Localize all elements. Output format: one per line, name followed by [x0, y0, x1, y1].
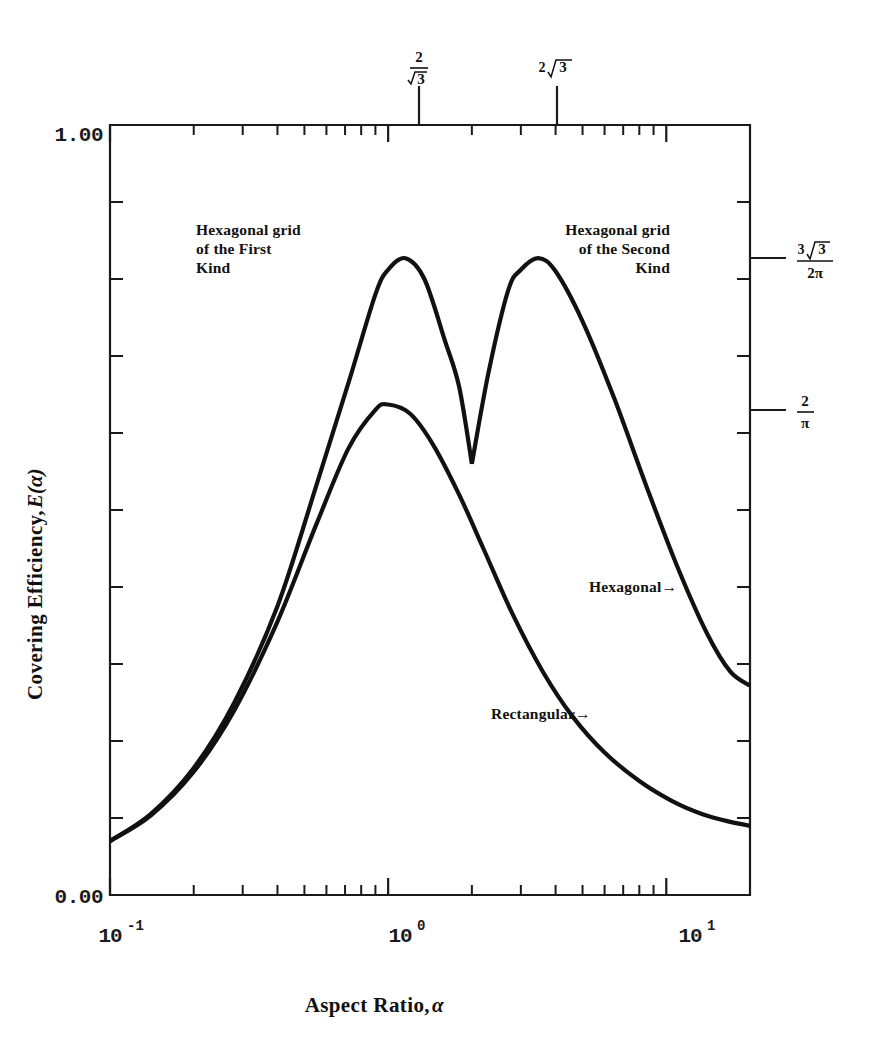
x-axis-label-left-exponent: -1	[127, 918, 144, 934]
right-marker-numerator-radicand: 3	[818, 241, 826, 257]
top-marker-coefficient: 2	[539, 60, 546, 75]
y-axis-title: Covering Efficiency, E(α)	[23, 468, 47, 700]
y-axis-ticks-right	[737, 202, 750, 818]
y-axis-bottom-label: 0.00	[55, 886, 103, 909]
x-axis-ticks-top	[110, 125, 750, 142]
y-axis-title-text: Covering Efficiency,	[23, 510, 47, 700]
annotation-line: Hexagonal grid	[565, 221, 670, 238]
curve-rectangular	[110, 404, 750, 841]
annotation-hexagonal-curve: Hexagonal→	[589, 578, 677, 595]
chart-svg: 2 3 2 3 3 3 2π 2 π	[0, 0, 875, 1058]
x-axis-label-right-exponent: 1	[707, 918, 715, 934]
annotation-line: of the Second	[579, 240, 670, 257]
annotation-line: Kind	[636, 259, 671, 276]
annotation-hex-first-kind: Hexagonal grid of the First Kind	[196, 221, 301, 276]
annotation-hex-second-kind: Hexagonal grid of the Second Kind	[565, 221, 670, 276]
x-axis-label-right: 10 1	[678, 918, 715, 948]
annotation-rectangular-curve: Rectangular→	[491, 705, 591, 722]
top-marker-numerator: 2	[415, 49, 423, 65]
right-marker-two-over-pi: 2 π	[750, 393, 814, 431]
data-curves	[110, 258, 750, 841]
figure-container: 2 3 2 3 3 3 2π 2 π	[0, 0, 875, 1058]
top-marker-two-over-sqrt3: 2 3	[408, 49, 428, 125]
x-axis-title-text: Aspect Ratio,	[305, 993, 430, 1017]
top-marker-two-sqrt3: 2 3	[539, 59, 573, 125]
right-marker-denominator: 2π	[807, 265, 824, 281]
x-axis-label-right-base: 10	[678, 925, 702, 948]
top-marker-radicand: 3	[417, 71, 425, 87]
y-axis-top-label: 1.00	[55, 124, 103, 147]
annotation-line: Kind	[196, 259, 231, 276]
x-axis-label-mid: 10 0	[388, 918, 425, 948]
x-axis-label-left-base: 10	[98, 925, 122, 948]
right-marker-numerator-coefficient: 3	[798, 242, 805, 257]
top-marker-radicand: 3	[559, 59, 567, 75]
x-axis-title: Aspect Ratio, α	[305, 993, 444, 1017]
right-marker-numerator: 2	[801, 393, 809, 409]
x-axis-label-mid-exponent: 0	[417, 918, 425, 934]
x-axis-label-mid-base: 10	[388, 925, 412, 948]
annotation-line: of the First	[196, 240, 272, 257]
x-axis-label-left: 10 -1	[98, 918, 143, 948]
y-axis-title-symbol: E(α)	[23, 468, 47, 509]
y-axis-ticks-left	[110, 202, 123, 818]
x-axis-ticks-bottom	[110, 878, 750, 895]
x-axis-title-symbol: α	[432, 993, 444, 1017]
annotation-line: Hexagonal grid	[196, 221, 301, 238]
right-marker-denominator: π	[801, 415, 810, 431]
right-marker-three-sqrt3-over-two-pi: 3 3 2π	[750, 241, 833, 281]
